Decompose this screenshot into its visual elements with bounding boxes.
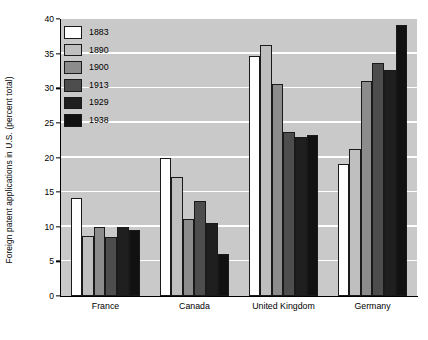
y-tick-label: 5 [14,256,54,266]
x-category-label: United Kingdom [252,301,315,311]
bar-germany-1938[interactable] [396,25,408,296]
bar-france-1929[interactable] [117,227,129,296]
legend-label: 1883 [89,28,109,37]
x-category-label: Germany [354,301,390,311]
legend: 188318901900191319291938 [64,26,109,127]
legend-label: 1929 [89,98,109,107]
bar-canada-1929[interactable] [206,223,218,296]
bar-group-germany [338,19,408,296]
bar-united-kingdom-1929[interactable] [295,137,307,296]
y-tick-mark [56,88,60,89]
y-tick-mark [56,191,60,192]
bar-group-canada [160,19,230,296]
y-tick-label: 0 [14,291,54,301]
y-tick-mark [56,226,60,227]
y-tick-label: 20 [14,153,54,163]
bar-france-1913[interactable] [105,237,117,296]
y-tick-label: 15 [14,187,54,197]
legend-item-1929[interactable]: 1929 [64,96,109,109]
bar-france-1883[interactable] [71,198,83,296]
y-tick-mark [56,157,60,158]
plot-area [61,19,417,296]
x-category-label: Canada [179,301,210,311]
legend-label: 1900 [89,63,109,72]
legend-swatch-1913 [64,79,82,92]
legend-swatch-1938 [64,114,82,127]
legend-swatch-1900 [64,61,82,74]
y-tick-mark [56,53,60,54]
legend-swatch-1929 [64,97,82,110]
bar-united-kingdom-1900[interactable] [272,84,284,296]
bar-france-1890[interactable] [82,236,94,296]
legend-item-1900[interactable]: 1900 [64,61,109,74]
legend-item-1883[interactable]: 1883 [64,26,109,39]
y-tick-label: 10 [14,222,54,232]
bar-united-kingdom-1938[interactable] [307,135,319,296]
y-tick-label: 35 [14,49,54,59]
legend-label: 1913 [89,81,109,90]
bar-france-1938[interactable] [129,230,141,296]
y-tick-label: 25 [14,118,54,128]
y-axis-line [60,19,61,297]
bar-germany-1913[interactable] [372,63,384,296]
bar-canada-1890[interactable] [171,177,183,296]
bar-chart: Foreign patent applications in U.S. (per… [0,0,428,340]
bar-canada-1913[interactable] [194,201,206,296]
x-category-label: France [92,301,119,311]
bar-germany-1890[interactable] [349,149,361,297]
bar-united-kingdom-1913[interactable] [283,132,295,296]
y-tick-label: 30 [14,83,54,93]
bar-canada-1938[interactable] [218,254,230,296]
bar-germany-1900[interactable] [361,81,373,296]
bar-group-united-kingdom [249,19,319,296]
legend-swatch-1890 [64,44,82,57]
y-tick-mark [56,295,60,296]
legend-label: 1890 [89,46,109,55]
bar-united-kingdom-1890[interactable] [260,45,272,296]
legend-item-1890[interactable]: 1890 [64,44,109,57]
x-axis-line [60,296,418,297]
y-tick-label: 40 [14,14,54,24]
bar-germany-1929[interactable] [384,70,396,296]
legend-item-1938[interactable]: 1938 [64,114,109,127]
bar-united-kingdom-1883[interactable] [249,56,261,296]
legend-item-1913[interactable]: 1913 [64,79,109,92]
y-tick-mark [56,18,60,19]
bar-canada-1900[interactable] [183,219,195,296]
y-tick-mark [56,122,60,123]
legend-label: 1938 [89,116,109,125]
y-tick-mark [56,261,60,262]
bar-germany-1883[interactable] [338,164,350,296]
legend-swatch-1883 [64,26,82,39]
bar-canada-1883[interactable] [160,158,172,297]
bar-france-1900[interactable] [94,227,106,296]
